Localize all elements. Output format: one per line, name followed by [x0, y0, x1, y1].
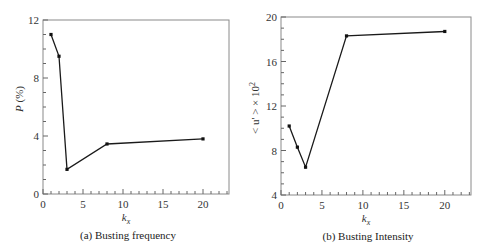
data-point	[201, 137, 204, 140]
x-tick-label: 5	[319, 199, 325, 211]
y-tick-label: 16	[266, 56, 278, 68]
data-point	[57, 55, 60, 58]
y-tick-label: 12	[266, 100, 277, 112]
y-tick-label: 8	[34, 72, 40, 84]
x-tick-label: 0	[40, 198, 46, 210]
plot-frame	[43, 20, 229, 194]
y-tick-label: 12	[28, 14, 39, 26]
chart-busting-frequency: 0510152004812kxP (%)(a) Busting frequenc…	[13, 14, 229, 242]
x-axis-label: kx	[362, 212, 371, 227]
data-point	[65, 168, 68, 171]
x-tick-label: 0	[278, 199, 284, 211]
y-axis-label: P (%)	[13, 86, 26, 113]
data-point	[296, 146, 299, 149]
y-tick-label: 0	[34, 188, 40, 200]
x-tick-label: 10	[357, 199, 369, 211]
figure-caption: (a) Busting frequency	[80, 229, 176, 242]
data-series-line	[289, 32, 445, 168]
x-tick-label: 20	[439, 199, 451, 211]
data-point	[105, 142, 108, 145]
chart-busting-intensity: 0510152048121620kx< u' > × 102(b) Bustin…	[248, 11, 471, 243]
x-axis-label: kx	[122, 211, 131, 226]
data-point	[288, 124, 291, 127]
x-tick-label: 5	[80, 198, 86, 210]
y-tick-label: 4	[272, 189, 278, 201]
y-tick-label: 8	[272, 145, 278, 157]
data-point	[443, 30, 446, 33]
figure-caption: (b) Busting Intensity	[322, 230, 414, 243]
y-tick-label: 4	[34, 130, 40, 142]
x-tick-label: 15	[398, 199, 410, 211]
figure: 0510152004812kxP (%)(a) Busting frequenc…	[0, 0, 488, 250]
data-point	[49, 33, 52, 36]
y-axis-label: < u' > × 102	[248, 82, 261, 134]
plot-frame	[281, 17, 471, 195]
x-tick-label: 20	[198, 198, 210, 210]
data-series-line	[51, 35, 203, 170]
data-point	[304, 166, 307, 169]
x-tick-label: 10	[118, 198, 130, 210]
data-point	[345, 34, 348, 37]
x-tick-label: 15	[158, 198, 170, 210]
y-tick-label: 20	[266, 11, 278, 23]
